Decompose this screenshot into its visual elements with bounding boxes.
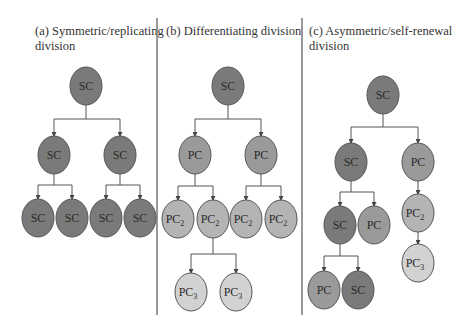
cell-label: SC — [47, 148, 62, 162]
cell-node-pc: PC — [179, 136, 211, 174]
cell-division-diagram: SCSCSCSCSCSCSCSCPCPCPC2PC2PC2PC2PC3PC3SC… — [0, 0, 456, 329]
cell-label: SC — [351, 283, 366, 297]
cell-label: SC — [65, 211, 80, 225]
cell-node-pc: PC — [402, 143, 434, 181]
cell-label: SC — [79, 79, 94, 93]
cell-node-sc: SC — [335, 143, 367, 181]
cell-node-sc: SC — [342, 271, 374, 309]
cell-label: SC — [133, 211, 148, 225]
cell-node-sc: SC — [367, 76, 399, 114]
cell-node-sc: SC — [22, 199, 54, 237]
cell-label: SC — [333, 218, 348, 232]
cell-node-sc: SC — [104, 136, 136, 174]
cell-label: PC — [411, 155, 426, 169]
cell-node-sc: SC — [124, 199, 156, 237]
cell-label: SC — [113, 148, 128, 162]
cell-label: SC — [31, 211, 46, 225]
cell-node-pc: PC — [245, 136, 277, 174]
cell-node-sc: SC — [324, 206, 356, 244]
cell-node-pc2: PC2 — [162, 200, 194, 238]
cell-node-pc2: PC2 — [402, 194, 434, 232]
cell-label: PC — [317, 283, 332, 297]
cell-label: PC — [254, 148, 269, 162]
cell-label: SC — [344, 155, 359, 169]
cell-node-pc2: PC2 — [197, 200, 229, 238]
cell-label: SC — [221, 79, 236, 93]
cell-label: PC — [367, 218, 382, 232]
cell-nodes: SCSCSCSCSCSCSCSCPCPCPC2PC2PC2PC2PC3PC3SC… — [22, 67, 434, 311]
cell-node-pc: PC — [358, 206, 390, 244]
cell-label: SC — [376, 88, 391, 102]
cell-node-pc2: PC2 — [265, 200, 297, 238]
cell-node-pc3: PC3 — [175, 273, 207, 311]
cell-node-sc: SC — [212, 67, 244, 105]
cell-node-pc3: PC3 — [220, 273, 252, 311]
cell-node-pc3: PC3 — [402, 244, 434, 282]
cell-label: SC — [99, 211, 114, 225]
cell-node-pc2: PC2 — [230, 200, 262, 238]
cell-node-sc: SC — [90, 199, 122, 237]
cell-node-sc: SC — [70, 67, 102, 105]
cell-node-pc: PC — [308, 271, 340, 309]
cell-node-sc: SC — [56, 199, 88, 237]
cell-label: PC — [188, 148, 203, 162]
cell-node-sc: SC — [38, 136, 70, 174]
connector-lines — [38, 105, 418, 273]
